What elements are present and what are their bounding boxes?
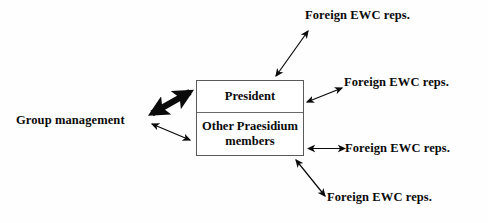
node-label-group-management: Group management xyxy=(16,113,125,127)
connector-group-management-to-praesidium xyxy=(152,124,190,140)
node-label-foreign-ewc-reps-1: Foreign EWC reps. xyxy=(305,8,410,22)
president-label: President xyxy=(225,89,275,104)
connector-box-to-foreign-ewc-reps-4 xyxy=(296,160,325,196)
box-cell-president: President xyxy=(197,81,303,113)
praesidium-box: President Other Praesidium members xyxy=(196,80,304,156)
connector-box-to-foreign-ewc-reps-2 xyxy=(307,88,342,102)
node-label-foreign-ewc-reps-3: Foreign EWC reps. xyxy=(345,141,450,155)
box-cell-other-praesidium-members: Other Praesidium members xyxy=(197,113,303,155)
connector-group-management-to-president xyxy=(152,92,190,114)
other-praesidium-members-label: Other Praesidium members xyxy=(199,119,301,149)
node-label-foreign-ewc-reps-4: Foreign EWC reps. xyxy=(327,190,432,204)
node-label-foreign-ewc-reps-2: Foreign EWC reps. xyxy=(344,75,449,89)
connector-box-to-foreign-ewc-reps-1 xyxy=(276,31,308,76)
diagram-canvas: President Other Praesidium members Group… xyxy=(0,0,488,223)
